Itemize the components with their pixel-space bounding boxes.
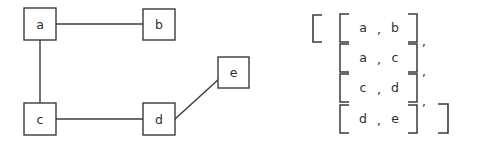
edge-list-row[interactable]: c , d , (340, 74, 426, 109)
pair-left-label: a (359, 50, 367, 65)
graph-node-b[interactable]: b (143, 9, 175, 40)
graph-edges (40, 24, 219, 119)
graph-node-c[interactable]: c (24, 103, 56, 135)
edge-list: a , b , a , c , c , d , (270, 0, 480, 142)
outer-open-bracket-icon (313, 15, 322, 42)
pair-separator: , (377, 22, 381, 37)
pair-open-bracket-icon (340, 105, 349, 133)
pair-close-bracket-icon (408, 44, 417, 72)
pair-open-bracket-icon (340, 74, 349, 102)
edge-list-svg: a , b , a , c , c , d , (270, 0, 480, 142)
edge-d-e (175, 79, 219, 119)
pair-open-bracket-icon (340, 44, 349, 72)
node-d-label: d (155, 112, 163, 127)
graph-node-a[interactable]: a (24, 8, 56, 40)
pair-right-label: d (391, 80, 399, 95)
pair-close-bracket-icon (408, 14, 417, 42)
row-trailing-comma: , (422, 35, 426, 49)
pair-separator: , (377, 113, 381, 128)
pair-close-bracket-icon (408, 105, 417, 133)
node-c-label: c (37, 112, 44, 127)
pair-open-bracket-icon (340, 14, 349, 42)
pair-left-label: a (359, 20, 367, 35)
pair-left-label: d (359, 111, 367, 126)
graph-node-d[interactable]: d (143, 103, 175, 135)
row-trailing-comma: , (422, 65, 426, 79)
node-a-label: a (36, 17, 44, 32)
edge-list-row[interactable]: d , e (340, 105, 417, 133)
graph-node-e[interactable]: e (218, 57, 249, 88)
node-e-label: e (230, 65, 238, 80)
pair-right-label: c (392, 50, 399, 65)
pair-close-bracket-icon (408, 74, 417, 102)
pair-separator: , (377, 82, 381, 97)
pair-left-label: c (360, 80, 367, 95)
pair-right-label: b (391, 20, 399, 35)
graph-svg: a b c d e (0, 0, 270, 142)
row-trailing-comma: , (422, 95, 426, 109)
node-b-label: b (155, 17, 163, 32)
graph-diagram: a b c d e (0, 0, 270, 142)
figure-canvas: a b c d e (0, 0, 480, 142)
pair-right-label: e (391, 111, 399, 126)
pair-separator: , (377, 52, 381, 67)
outer-close-bracket-icon (438, 104, 448, 133)
